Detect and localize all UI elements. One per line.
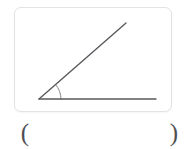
close-paren: ) [167,116,181,149]
angle-figure-card [14,7,172,112]
answer-blank[interactable] [32,116,167,149]
diagonal-ray [39,23,126,99]
answer-slot: ( ) [0,116,188,149]
page-root: ( ) [0,0,188,149]
open-paren: ( [18,116,32,149]
angle-arc [56,85,61,99]
angle-diagram [15,8,173,113]
